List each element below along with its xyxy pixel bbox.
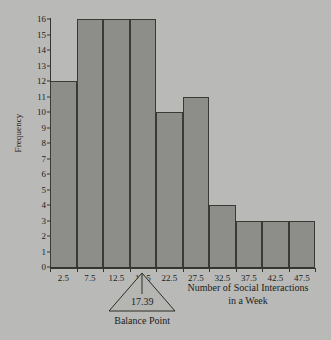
y-axis-tick-label: 3 [42,216,47,226]
x-axis-tick-label: 2.5 [58,273,69,283]
y-axis-tick-label: 13 [37,61,46,71]
y-axis-tick-label: 9 [42,123,47,133]
y-axis-tick-mark [47,236,50,237]
x-axis-tick-mark [315,268,316,272]
y-axis-tick-label: 16 [37,14,46,24]
y-axis-tick-mark [47,205,50,206]
y-axis-tick-label: 11 [37,92,46,102]
y-axis-tick-label: 8 [42,138,47,148]
x-axis-title-line-1: Number of Social Interactions [168,281,328,294]
y-axis-tick-mark [47,127,50,128]
x-axis-tick-mark [236,268,237,272]
y-axis-tick-mark [47,65,50,66]
y-axis-tick-mark [47,96,50,97]
y-axis-tick-label: 15 [37,30,46,40]
plot-area: 012345678910111213141516 2.57.512.517.52… [50,18,315,268]
balance-point-value: 17.39 [108,296,176,307]
x-axis-tick-mark [289,268,290,272]
y-axis-title: Frequency [13,93,23,173]
histogram-bar [130,19,157,267]
x-axis-tick-mark [262,268,263,272]
x-axis-tick-label: 7.5 [84,273,95,283]
x-axis-tick-mark [50,268,51,272]
y-axis-tick-label: 5 [42,185,47,195]
histogram-bar [103,19,130,267]
x-axis-title-line-2: in a Week [168,294,328,307]
histogram-bar [289,221,316,268]
y-axis-tick-mark [47,50,50,51]
histogram-bar [50,81,77,267]
x-axis-tick-mark [209,268,210,272]
y-axis-tick-label: 4 [42,200,47,210]
x-axis-tick-mark [77,268,78,272]
y-axis-tick-label: 1 [42,247,47,257]
x-axis-tick-label: 12.5 [108,273,124,283]
y-axis-tick-label: 0 [42,262,47,272]
y-axis-tick-mark [47,34,50,35]
y-axis-tick-mark [47,143,50,144]
histogram-bar [209,205,236,267]
y-axis-tick-label: 10 [37,107,46,117]
x-axis-tick-mark [103,268,104,272]
y-axis-tick-label: 7 [42,154,47,164]
histogram-bar [156,112,183,267]
x-axis-tick-mark [156,268,157,272]
x-axis-tick-mark [183,268,184,272]
balance-point-caption: Balance Point [88,315,196,326]
y-axis-tick-mark [47,251,50,252]
histogram-bar [77,19,104,267]
y-axis-tick-mark [47,81,50,82]
y-axis-tick-label: 14 [37,45,46,55]
y-axis-tick-mark [47,220,50,221]
histogram-bar [183,97,210,268]
y-axis-tick-mark [47,189,50,190]
x-axis-tick-mark [130,268,131,272]
histogram-figure: Frequency 012345678910111213141516 2.57.… [0,0,331,340]
y-axis-tick-mark [47,174,50,175]
y-axis-tick-label: 6 [42,169,47,179]
x-axis-title: Number of Social Interactions in a Week [168,281,328,307]
y-axis-tick-mark [47,19,50,20]
y-axis-tick-mark [47,112,50,113]
histogram-bar [262,221,289,268]
y-axis-tick-label: 2 [42,231,47,241]
y-axis-tick-mark [47,158,50,159]
y-axis-tick-label: 12 [37,76,46,86]
x-axis-tick-label: 17.5 [135,273,151,283]
histogram-bar [236,221,263,268]
